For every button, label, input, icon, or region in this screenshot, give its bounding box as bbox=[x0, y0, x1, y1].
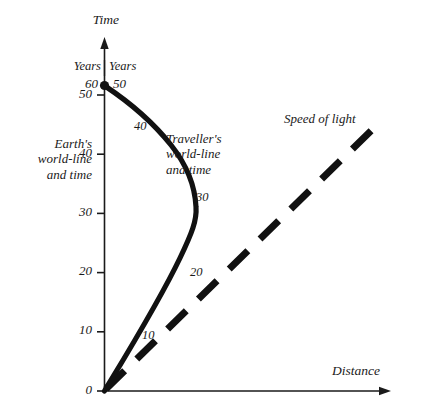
y-tick-label-10: 10 bbox=[64, 322, 92, 337]
speed-of-light-annotation: Speed of light bbox=[284, 111, 356, 126]
traveller-tick-label-10: 10 bbox=[142, 328, 155, 343]
traveller-tick-label-30: 30 bbox=[196, 190, 209, 205]
x-axis-title: Distance bbox=[332, 363, 380, 379]
y-tick-label-0: 0 bbox=[64, 382, 92, 397]
traveller-years-header: Years bbox=[109, 59, 166, 74]
earth-worldline-annotation: Earth's world-line and time bbox=[8, 136, 92, 182]
earth-years-header: Years bbox=[44, 59, 101, 74]
reunion-point-dot bbox=[100, 81, 109, 90]
traveller-tick-label-20: 20 bbox=[190, 265, 203, 280]
y-tick-label-50: 50 bbox=[64, 86, 92, 101]
traveller-worldline-annotation: Traveller's world-line and time bbox=[166, 131, 262, 177]
y-axis-title: Time bbox=[78, 12, 134, 28]
traveller-endpoint-value: 50 bbox=[113, 76, 149, 91]
traveller-tick-label-40: 40 bbox=[134, 119, 147, 134]
y-tick-label-30: 30 bbox=[64, 204, 92, 219]
y-tick-label-20: 20 bbox=[64, 263, 92, 278]
